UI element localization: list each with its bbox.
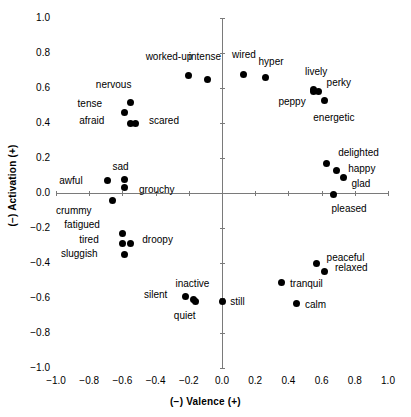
plot-area: worked-upintensewiredhyperlivelyperkypep…	[56, 18, 388, 368]
data-point	[330, 191, 337, 198]
x-tick	[189, 191, 190, 196]
data-point	[278, 279, 285, 286]
point-label: energetic	[313, 113, 354, 123]
data-point	[121, 184, 128, 191]
x-tick	[122, 191, 123, 196]
data-point	[104, 177, 111, 184]
x-tick-label: −0.4	[146, 376, 166, 386]
x-tick	[255, 191, 256, 196]
data-point	[240, 71, 247, 78]
point-label: quiet	[174, 311, 196, 321]
data-point	[293, 300, 300, 307]
point-label: still	[230, 297, 244, 307]
scatter-plot-figure: worked-upintensewiredhyperlivelyperkypep…	[0, 0, 411, 417]
data-point	[121, 251, 128, 258]
data-point	[323, 160, 330, 167]
point-label: calm	[305, 300, 326, 310]
y-axis-title: (−) Activation (+)	[7, 86, 18, 286]
data-point	[313, 260, 320, 267]
point-label: afraid	[79, 116, 104, 126]
y-tick	[220, 228, 225, 229]
data-point	[321, 268, 328, 275]
point-label: pleased	[332, 204, 367, 214]
point-label: happy	[348, 164, 375, 174]
x-tick-label: 0.2	[248, 376, 262, 386]
point-label: intense	[189, 52, 221, 62]
point-label: grouchy	[139, 185, 175, 195]
data-point	[185, 72, 192, 79]
point-label: scared	[149, 116, 179, 126]
x-tick-label: −0.8	[79, 376, 99, 386]
x-tick-label: −0.2	[179, 376, 199, 386]
y-tick	[220, 368, 225, 369]
data-point	[109, 197, 116, 204]
point-label: perky	[327, 78, 351, 88]
x-tick	[288, 191, 289, 196]
point-label: worked-up	[146, 52, 193, 62]
x-tick-label: 0.8	[348, 376, 362, 386]
data-point	[310, 88, 317, 95]
data-point	[321, 97, 328, 104]
data-point	[262, 74, 269, 81]
x-tick	[388, 191, 389, 196]
point-label: nervous	[96, 80, 132, 90]
y-tick-label: −0.6	[8, 293, 50, 303]
point-label: awful	[59, 176, 82, 186]
y-tick	[220, 88, 225, 89]
data-point	[333, 167, 340, 174]
data-point	[219, 298, 226, 305]
data-point	[192, 298, 199, 305]
y-tick-label: 0.8	[8, 48, 50, 58]
point-label: wired	[232, 50, 256, 60]
data-point	[121, 109, 128, 116]
y-tick	[220, 158, 225, 159]
point-label: fatigued	[64, 220, 100, 230]
x-tick	[89, 191, 90, 196]
point-label: tired	[79, 235, 98, 245]
x-tick-label: 1.0	[381, 376, 395, 386]
data-point	[119, 230, 126, 237]
point-label: lively	[305, 67, 327, 77]
point-label: crummy	[56, 206, 92, 216]
y-tick	[220, 333, 225, 334]
data-point	[340, 174, 347, 181]
point-label: silent	[144, 290, 167, 300]
point-label: glad	[351, 179, 370, 189]
point-label: sad	[112, 162, 128, 172]
x-axis-title: (−) Valence (+)	[0, 396, 411, 407]
x-tick-label: 0.0	[215, 376, 229, 386]
x-tick-label: −1.0	[46, 376, 66, 386]
data-point	[127, 240, 134, 247]
x-tick	[355, 191, 356, 196]
x-tick-label: 0.6	[315, 376, 329, 386]
point-label: hyper	[259, 57, 284, 67]
point-label: inactive	[176, 279, 210, 289]
data-point	[204, 76, 211, 83]
point-label: delighted	[338, 148, 379, 158]
data-point	[127, 99, 134, 106]
y-tick	[220, 193, 225, 194]
x-tick	[322, 191, 323, 196]
y-tick-label: −0.8	[8, 328, 50, 338]
point-label: peaceful	[327, 253, 365, 263]
point-label: sluggish	[61, 249, 98, 259]
point-label: droopy	[142, 235, 173, 245]
point-label: relaxed	[335, 263, 368, 273]
point-label: peppy	[278, 97, 305, 107]
y-tick	[220, 18, 225, 19]
y-tick	[220, 123, 225, 124]
x-tick	[56, 191, 57, 196]
x-tick-label: −0.6	[113, 376, 133, 386]
data-point	[182, 293, 189, 300]
point-label: tranquil	[290, 279, 323, 289]
point-label: tense	[78, 99, 102, 109]
y-tick	[220, 263, 225, 264]
data-point	[132, 120, 139, 127]
y-tick-label: −1.0	[8, 363, 50, 373]
data-point	[121, 176, 128, 183]
y-tick-label: 1.0	[8, 13, 50, 23]
data-point	[119, 240, 126, 247]
x-tick-label: 0.4	[281, 376, 295, 386]
